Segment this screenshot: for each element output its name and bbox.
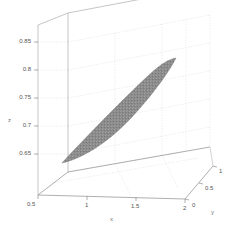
z-axis-title: z [8,117,11,123]
floor-axis-lines [38,147,213,199]
z-tick-label-0.65: 0.65 [11,150,31,156]
surface-mesh [55,50,190,180]
z-tick-label-0.85: 0.85 [11,38,31,44]
axes-box-frame [38,0,210,195]
x-tick-label-1: 1 [85,202,88,208]
z-axis-ticks [34,42,38,154]
axes-box-right-wall-grid [186,15,210,151]
y-tick-label-0: 0 [192,202,195,208]
y-tick-label-0.5: 0.5 [205,185,213,191]
z-tick-label-0.75: 0.75 [11,94,31,100]
figure-canvas: 0.85 0.8 0.75 0.7 0.65 0.5 1 1.5 2 0 0.5… [0,0,232,231]
x-tick-label-0.5: 0.5 [27,201,35,207]
x-axis-title: x [110,216,113,222]
x-tick-label-1.5: 1.5 [131,203,139,209]
y-axis-title: y [211,209,214,215]
x-tick-label-2: 2 [183,205,186,211]
axes-box-back-walls [38,15,210,164]
z-tick-label-0.8: 0.8 [11,66,31,72]
z-tick-label-0.7: 0.7 [11,122,31,128]
y-axis-ticks [185,166,217,200]
y-tick-label-1: 1 [219,168,222,174]
x-axis-ticks [38,195,185,203]
surface-plot-3d [0,0,232,231]
